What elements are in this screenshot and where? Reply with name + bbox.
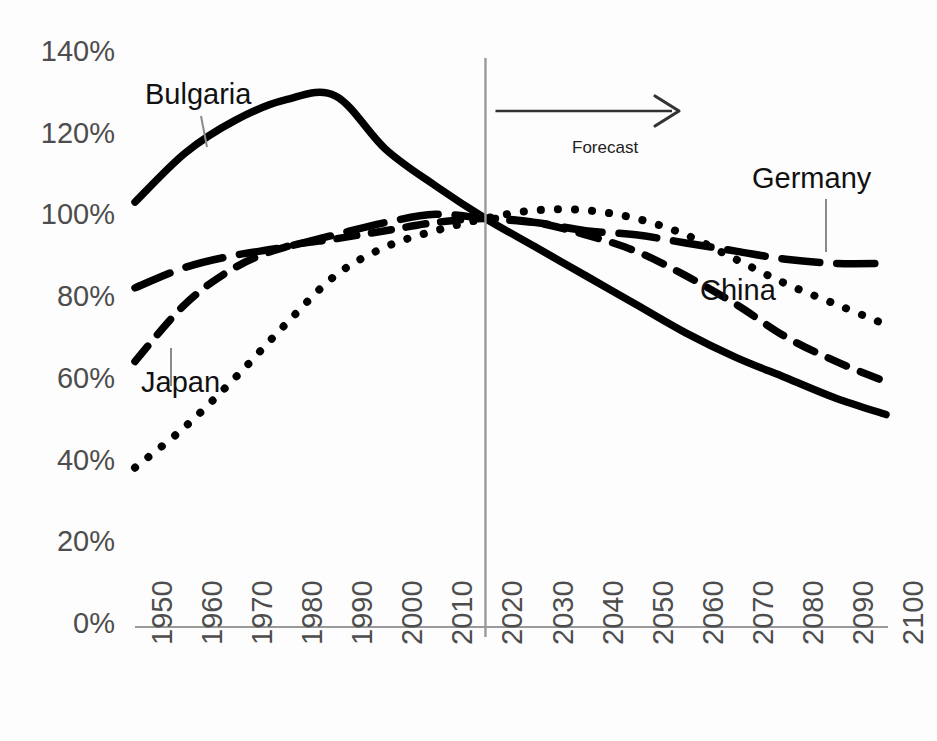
x-tick-2050: 2050 — [647, 580, 680, 645]
series-label-germany: Germany — [752, 162, 871, 195]
y-tick-120: 120% — [0, 117, 115, 150]
x-tick-2040: 2040 — [597, 580, 630, 645]
x-tick-2100: 2100 — [897, 580, 930, 645]
y-tick-80: 80% — [0, 280, 115, 313]
x-tick-2010: 2010 — [446, 580, 479, 645]
y-tick-20: 20% — [0, 525, 115, 558]
y-tick-100: 100% — [0, 198, 115, 231]
x-tick-2090: 2090 — [847, 580, 880, 645]
y-tick-60: 60% — [0, 362, 115, 395]
y-tick-140: 140% — [0, 35, 115, 68]
forecast-annotation-label: Forecast — [572, 138, 638, 158]
x-tick-2070: 2070 — [747, 580, 780, 645]
x-tick-2030: 2030 — [547, 580, 580, 645]
x-tick-2000: 2000 — [396, 580, 429, 645]
series-label-china: China — [700, 274, 776, 307]
x-tick-1980: 1980 — [296, 580, 329, 645]
x-tick-2060: 2060 — [697, 580, 730, 645]
y-tick-0: 0% — [0, 607, 115, 640]
chart-container: 140%120%100%80%60%40%20%0% 1950196019701… — [0, 0, 937, 741]
x-tick-1990: 1990 — [346, 580, 379, 645]
x-tick-2080: 2080 — [797, 580, 830, 645]
y-tick-40: 40% — [0, 444, 115, 477]
x-tick-1960: 1960 — [196, 580, 229, 645]
series-line-china — [135, 209, 886, 467]
x-tick-1950: 1950 — [146, 580, 179, 645]
x-tick-2020: 2020 — [496, 580, 529, 645]
series-label-japan: Japan — [141, 366, 220, 399]
series-label-bulgaria: Bulgaria — [145, 78, 251, 111]
x-tick-1970: 1970 — [246, 580, 279, 645]
